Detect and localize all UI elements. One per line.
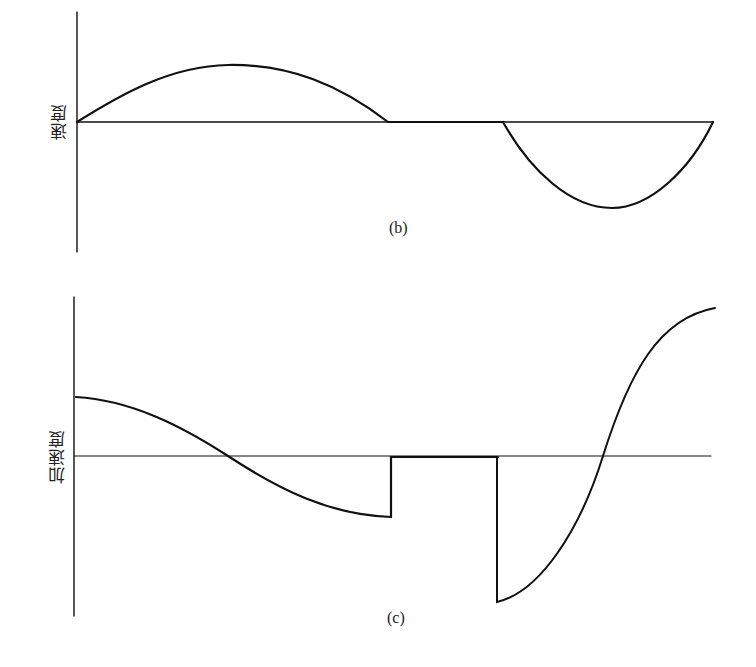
panel-c-caption: (c) [387,609,405,627]
acceleration-curve-2 [497,308,715,602]
velocity-axis-label: 速度 [46,104,71,140]
velocity-plot [77,12,713,252]
figure-canvas [0,0,756,667]
acceleration-axis-label: 加速度 [44,430,69,484]
panel-b-caption: (b) [389,219,408,237]
velocity-positive-arc [77,65,503,122]
acceleration-curve-1 [76,397,498,517]
acceleration-plot [74,297,715,616]
velocity-negative-arc [503,122,713,208]
